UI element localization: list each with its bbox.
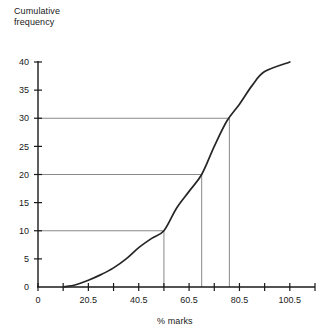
cumulative-frequency-chart: Cumulativefrequency % marks 051015202530… — [0, 0, 327, 336]
x-tick-label-80.5: 80.5 — [231, 295, 249, 305]
y-tick-label-35: 35 — [19, 85, 29, 95]
chart-plot-area: 0510152025303540 020.540.560.580.5100.5 — [0, 0, 327, 336]
y-tick-label-15: 15 — [19, 198, 29, 208]
y-tick-label-0: 0 — [24, 282, 29, 292]
y-tick-label-20: 20 — [19, 170, 29, 180]
guide-lines-group — [38, 118, 229, 287]
y-tick-label-30: 30 — [19, 113, 29, 123]
y-tick-label-10: 10 — [19, 226, 29, 236]
x-tick-label-0: 0 — [35, 295, 40, 305]
y-tick-label-25: 25 — [19, 142, 29, 152]
x-tick-label-20.5: 20.5 — [80, 295, 98, 305]
x-tick-label-40.5: 40.5 — [130, 295, 148, 305]
y-tick-label-40: 40 — [19, 57, 29, 67]
y-axis: 0510152025303540 — [19, 57, 42, 292]
x-tick-label-60.5: 60.5 — [180, 295, 198, 305]
y-tick-label-5: 5 — [24, 254, 29, 264]
x-axis: 020.540.560.580.5100.5 — [35, 283, 315, 305]
x-tick-label-100.5: 100.5 — [279, 295, 302, 305]
